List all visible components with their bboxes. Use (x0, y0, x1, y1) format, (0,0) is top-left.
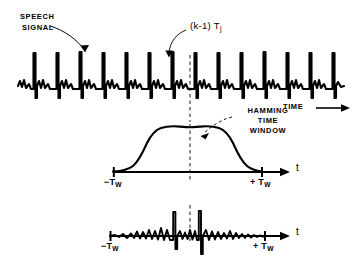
diagram-svg (0, 0, 359, 260)
neg-tw-text-middle: −T (104, 177, 115, 187)
pos-tw-text-middle: + T (250, 177, 264, 187)
figure-canvas: SPEECH SIGNAL (k-1) Tj TIME HAMMING TIME… (0, 0, 359, 260)
neg-tw-subscript-middle: W (115, 181, 121, 188)
pos-tw-label-bottom: + TW (253, 241, 273, 253)
frame-index-pointer-arrow (165, 30, 186, 58)
frame-index-label: (k-1) Tj (190, 20, 221, 33)
frame-index-text: (k-1) T (190, 20, 220, 31)
pos-tw-label-middle: + TW (250, 177, 270, 189)
hamming-window-label-line1: HAMMING (238, 107, 298, 116)
neg-tw-subscript-bottom: W (112, 245, 118, 252)
time-axis-arrow (316, 104, 350, 111)
speech-signal-label-line1: SPEECH (20, 13, 54, 22)
neg-tw-label-bottom: −TW (101, 241, 119, 253)
t-axis-label-middle: t (296, 162, 299, 174)
speech-signal-waveform (18, 52, 344, 98)
frame-index-subscript: j (220, 25, 222, 32)
hamming-window-axis (113, 167, 290, 177)
t-axis-label-bottom: t (296, 226, 299, 238)
pos-tw-subscript-middle: W (264, 181, 270, 188)
neg-tw-label-middle: −TW (104, 177, 122, 189)
hamming-window-label-line3: WINDOW (238, 127, 298, 136)
neg-tw-text-bottom: −T (101, 241, 112, 251)
windowed-segment-waveform (110, 211, 266, 254)
hamming-window-label-line2: TIME (238, 117, 298, 126)
speech-signal-label-line2: SIGNAL (22, 24, 54, 33)
pos-tw-subscript-bottom: W (267, 245, 273, 252)
speech-signal-pointer-arrow (50, 26, 89, 53)
pos-tw-text-bottom: + T (253, 241, 267, 251)
